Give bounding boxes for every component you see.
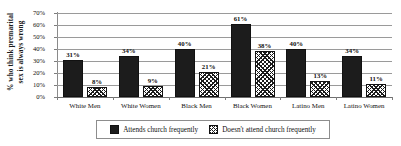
bar <box>119 56 139 97</box>
y-axis-tick-label: 60% <box>21 22 45 29</box>
y-axis-title-line-1: % who think premarital <box>6 13 16 91</box>
legend-item-doesnt-attend: Doesn't attend church frequently <box>209 125 316 134</box>
legend-label-doesnt-attend: Doesn't attend church frequently <box>222 126 316 134</box>
bar-value-label: 21% <box>194 64 224 71</box>
bar <box>175 49 195 97</box>
bar-value-label: 8% <box>82 79 112 86</box>
x-axis-tick-mark <box>113 97 114 100</box>
x-axis-tick-mark <box>225 97 226 100</box>
chart-legend: Attends church frequently Doesn't attend… <box>96 120 330 139</box>
bar-chart-figure: % who think premarital sex is always wro… <box>0 0 401 146</box>
bar-value-label: 40% <box>170 41 200 48</box>
bar <box>255 51 275 97</box>
x-axis-tick-mark <box>336 97 337 100</box>
bar-group: 61%38% <box>225 13 281 97</box>
bar-group: 34%11% <box>336 13 392 97</box>
bar <box>231 24 251 97</box>
x-axis-category-labels: White MenWhite WomenBlack MenBlack Women… <box>57 101 392 113</box>
bar-group: 31%8% <box>57 13 113 97</box>
bar <box>143 86 163 97</box>
bar-group: 40%13% <box>280 13 336 97</box>
y-axis-tick-label: 20% <box>21 70 45 77</box>
bar-value-label: 40% <box>281 41 311 48</box>
bar-value-label: 34% <box>114 48 144 55</box>
legend-label-attends: Attends church frequently <box>123 126 198 134</box>
bar-value-label: 9% <box>138 78 168 85</box>
bar <box>286 49 306 97</box>
y-axis-tick-label: 0% <box>21 94 45 101</box>
y-axis-tick-label: 40% <box>21 46 45 53</box>
bar-value-label: 31% <box>58 52 88 59</box>
legend-item-attends: Attends church frequently <box>110 125 198 134</box>
x-axis-category-label: Latino Women <box>336 101 392 110</box>
x-axis-tick-mark <box>280 97 281 100</box>
x-axis-tick-mark <box>169 97 170 100</box>
bar-value-label: 13% <box>305 73 335 80</box>
bar <box>342 56 362 97</box>
plot-area: 0%10%20%30%40%50%60%70% 31%8%34%9%40%21%… <box>57 13 392 97</box>
x-axis-category-label: White Women <box>113 101 169 110</box>
legend-swatch-attends-icon <box>110 125 119 134</box>
bar-group: 40%21% <box>169 13 225 97</box>
bar <box>63 60 83 97</box>
bar <box>87 87 107 97</box>
x-axis-category-label: Black Men <box>169 101 225 110</box>
bar <box>366 84 386 97</box>
bar <box>310 81 330 97</box>
bar <box>199 72 219 97</box>
legend-swatch-doesnt-attend-icon <box>209 125 218 134</box>
y-axis-tick-label: 30% <box>21 58 45 65</box>
bar-groups: 31%8%34%9%40%21%61%38%40%13%34%11% <box>57 13 392 97</box>
bar-value-label: 34% <box>337 48 367 55</box>
x-axis-tick-mark <box>392 97 393 100</box>
y-axis-tick-label: 70% <box>21 10 45 17</box>
bar-value-label: 38% <box>250 43 280 50</box>
y-axis-tick-label: 10% <box>21 82 45 89</box>
x-axis-category-label: Black Women <box>225 101 281 110</box>
bar-value-label: 11% <box>361 76 391 83</box>
y-axis-tick-label: 50% <box>21 34 45 41</box>
bar-value-label: 61% <box>226 16 256 23</box>
x-axis-category-label: Latino Men <box>280 101 336 110</box>
x-axis-category-label: White Men <box>57 101 113 110</box>
x-axis-tick-mark <box>57 97 58 100</box>
bar-group: 34%9% <box>113 13 169 97</box>
